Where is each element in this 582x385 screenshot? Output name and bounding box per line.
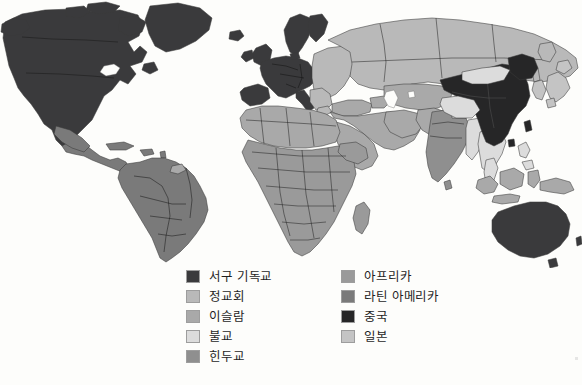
legend-label-buddhism: 불교 [209,330,233,343]
region-new-zealand [576,236,582,246]
legend-label-africa: 아프리카 [364,270,412,283]
legend-label-orthodox: 정교회 [209,290,245,303]
scan-artifact [575,357,578,360]
legend-item-hinduism: 힌두교 [186,346,272,366]
region-java [492,194,520,204]
legend-right-column: 아프리카 라틴 아메리카 중국 일본 [341,266,439,346]
legend-item-china: 중국 [341,306,439,326]
world-civilizations-figure: 서구 기독교 정교회 이슬람 불교 힌두교 아프리카 [0,0,582,385]
legend-item-japan: 일본 [341,326,439,346]
legend-swatch-orthodox [186,290,200,303]
legend-left-column: 서구 기독교 정교회 이슬람 불교 힌두교 [186,266,272,366]
legend-label-latin-america: 라틴 아메리카 [364,290,439,303]
legend-swatch-islam [186,310,200,323]
map-legend: 서구 기독교 정교회 이슬람 불교 힌두교 아프리카 [0,266,582,385]
legend-item-orthodox: 정교회 [186,286,272,306]
legend-swatch-latin-america [341,290,355,303]
legend-swatch-china [341,310,355,323]
legend-label-japan: 일본 [364,330,388,343]
legend-label-hinduism: 힌두교 [209,350,245,363]
legend-swatch-western-christianity [186,270,200,283]
region-hainan [508,139,515,147]
legend-label-western-christianity: 서구 기독교 [209,270,272,283]
legend-swatch-buddhism [186,330,200,343]
legend-swatch-japan [341,330,355,343]
legend-item-islam: 이슬람 [186,306,272,326]
legend-item-western-christianity: 서구 기독교 [186,266,272,286]
legend-label-china: 중국 [364,310,388,323]
aral-sea [408,91,415,98]
legend-label-islam: 이슬람 [209,310,245,323]
legend-item-buddhism: 불교 [186,326,272,346]
legend-item-africa: 아프리카 [341,266,439,286]
map-canvas [0,0,582,268]
legend-swatch-hinduism [186,350,200,363]
world-map-svg [0,0,582,268]
region-japan-kyushu [546,98,556,108]
legend-item-latin-america: 라틴 아메리카 [341,286,439,306]
legend-swatch-africa [341,270,355,283]
region-lesser-antilles [160,151,166,158]
